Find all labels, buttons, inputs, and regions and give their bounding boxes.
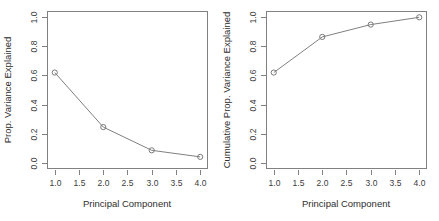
data-series-right: [271, 15, 422, 75]
y-axis-title-right: Cumulative Prop. Variance Explained: [221, 12, 232, 169]
y-tick-label: 0.0: [248, 157, 258, 169]
x-tick-labels-left: 1.01.52.02.53.03.54.0: [50, 178, 207, 188]
scree-plot-figure: 1.01.52.02.53.03.54.0 0.00.20.40.60.81.0…: [0, 0, 439, 221]
x-axis-title-right: Principal Component: [302, 198, 391, 209]
x-tick-label: 2.5: [122, 178, 134, 188]
x-tick-label: 3.0: [147, 178, 159, 188]
chart-panel-right: 1.01.52.02.53.03.54.0 0.00.20.40.60.81.0…: [219, 0, 438, 221]
x-tick-label: 3.0: [366, 178, 378, 188]
plot-frame-left: [48, 12, 208, 169]
x-tick-label: 4.0: [414, 178, 426, 188]
series-line: [274, 17, 419, 72]
y-tick-label: 0.6: [248, 69, 258, 81]
x-tick-label: 2.5: [341, 178, 353, 188]
y-tick-label: 0.4: [248, 99, 258, 111]
x-tick-label: 3.5: [390, 178, 402, 188]
x-tick-label: 2.0: [317, 178, 329, 188]
x-tick-label: 4.0: [195, 178, 207, 188]
x-axis-title-left: Principal Component: [83, 198, 172, 209]
y-tick-label: 0.2: [29, 128, 39, 140]
plot-frame-right: [267, 12, 427, 169]
y-tick-label: 1.0: [29, 11, 39, 23]
y-axis-title-left: Prop. Variance Explained: [2, 37, 13, 144]
y-tick-label: 0.8: [29, 40, 39, 52]
plot-area-left: 1.01.52.02.53.03.54.0 0.00.20.40.60.81.0…: [0, 0, 219, 221]
x-tick-labels-right: 1.01.52.02.53.03.54.0: [269, 178, 426, 188]
y-axis-ticks-right: [261, 18, 266, 164]
x-tick-label: 1.0: [269, 178, 281, 188]
chart-panel-left: 1.01.52.02.53.03.54.0 0.00.20.40.60.81.0…: [0, 0, 219, 221]
x-tick-label: 3.5: [171, 178, 183, 188]
y-tick-label: 0.2: [248, 128, 258, 140]
y-tick-label: 1.0: [248, 11, 258, 23]
series-line: [55, 73, 200, 157]
y-tick-label: 0.6: [29, 69, 39, 81]
y-tick-label: 0.0: [29, 157, 39, 169]
x-tick-label: 1.5: [293, 178, 305, 188]
data-series-left: [52, 70, 203, 160]
y-tick-labels-right: 0.00.20.40.60.81.0: [248, 11, 258, 169]
y-tick-label: 0.4: [29, 99, 39, 111]
x-axis-ticks-left: [56, 170, 201, 175]
x-tick-label: 1.0: [50, 178, 62, 188]
x-axis-ticks-right: [275, 170, 420, 175]
y-tick-label: 0.8: [248, 40, 258, 52]
plot-area-right: 1.01.52.02.53.03.54.0 0.00.20.40.60.81.0…: [219, 0, 438, 221]
y-tick-labels-left: 0.00.20.40.60.81.0: [29, 11, 39, 169]
x-tick-label: 1.5: [74, 178, 86, 188]
y-axis-ticks-left: [42, 18, 47, 164]
x-tick-label: 2.0: [98, 178, 110, 188]
